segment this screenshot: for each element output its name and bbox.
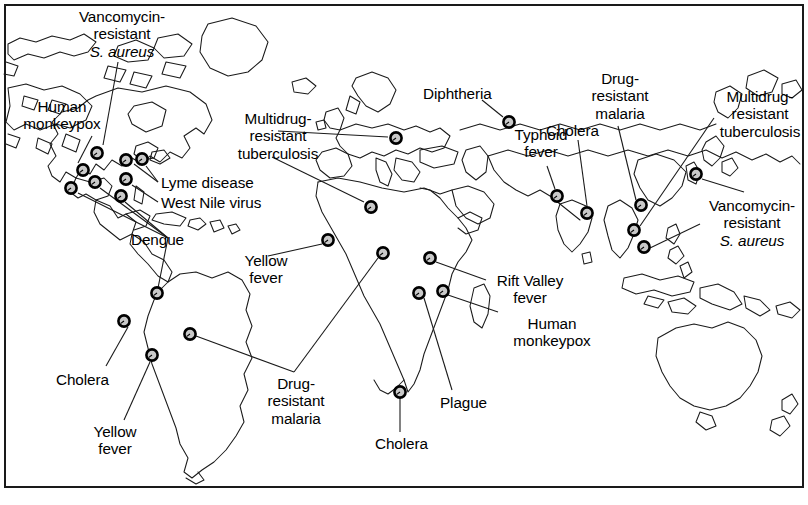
disease-label-cholera-africa: Cholera xyxy=(375,435,445,452)
disease-marker[interactable] xyxy=(413,287,424,298)
label-line: Multidrug- xyxy=(712,88,808,105)
label-line: fever xyxy=(489,289,571,306)
disease-marker[interactable] xyxy=(322,234,333,245)
disease-marker[interactable] xyxy=(581,207,592,218)
label-line: resistant xyxy=(578,87,662,104)
disease-marker[interactable] xyxy=(115,190,126,201)
coastlines-layer xyxy=(4,18,802,484)
label-line: Cholera xyxy=(546,122,616,139)
label-line: Drug- xyxy=(578,70,662,87)
disease-label-vancomycin-asia: Vancomycin-resistantS. aureus xyxy=(700,197,804,249)
disease-label-vancomycin-usa: Vancomycin-resistantS. aureus xyxy=(48,8,196,60)
label-line: Cholera xyxy=(375,435,445,452)
label-line: resistant xyxy=(700,214,804,231)
disease-marker[interactable] xyxy=(184,328,195,339)
label-line: tuberculosis xyxy=(224,145,332,162)
label-line: Human xyxy=(500,315,604,332)
disease-label-lyme-disease: Lyme disease xyxy=(161,174,277,191)
label-line: resistant xyxy=(712,105,808,122)
label-line: S. aureus xyxy=(48,43,196,60)
label-line: S. aureus xyxy=(700,232,804,249)
disease-marker[interactable] xyxy=(120,173,131,184)
label-line: Vancomycin- xyxy=(48,8,196,25)
label-line: Diphtheria xyxy=(423,85,507,102)
label-line: Multidrug- xyxy=(224,110,332,127)
disease-marker[interactable] xyxy=(151,287,162,298)
label-line: Human xyxy=(10,98,114,115)
disease-label-drug-resistant-malaria-asia: Drug-resistantmalaria xyxy=(578,70,662,122)
disease-label-west-nile-virus: West Nile virus xyxy=(161,194,287,211)
disease-marker[interactable] xyxy=(77,164,88,175)
label-line: Rift Valley xyxy=(489,272,571,289)
label-line: Cholera xyxy=(56,371,126,388)
disease-label-drug-resistant-malaria-africa: Drug-resistantmalaria xyxy=(254,375,338,427)
disease-marker[interactable] xyxy=(136,153,147,164)
label-line: tuberculosis xyxy=(712,123,808,140)
disease-marker[interactable] xyxy=(146,349,157,360)
disease-label-diphtheria: Diphtheria xyxy=(423,85,507,102)
disease-marker[interactable] xyxy=(365,201,376,212)
disease-marker[interactable] xyxy=(65,182,76,193)
label-line: malaria xyxy=(578,105,662,122)
label-line: Lyme disease xyxy=(161,174,277,191)
disease-marker[interactable] xyxy=(89,176,100,187)
disease-marker[interactable] xyxy=(638,241,649,252)
label-line: West Nile virus xyxy=(161,194,287,211)
label-line: resistant xyxy=(224,127,332,144)
label-line: Vancomycin- xyxy=(700,197,804,214)
label-line: fever xyxy=(505,143,577,160)
disease-label-human-monkeypox-usa: Humanmonkeypox xyxy=(10,98,114,133)
disease-marker[interactable] xyxy=(390,132,401,143)
label-line: Dengue xyxy=(131,231,201,248)
label-line: fever xyxy=(81,440,149,457)
disease-label-human-monkeypox-africa: Humanmonkeypox xyxy=(500,315,604,350)
disease-marker[interactable] xyxy=(551,190,562,201)
label-line: resistant xyxy=(254,392,338,409)
label-line: resistant xyxy=(48,25,196,42)
disease-marker[interactable] xyxy=(120,154,131,165)
label-line: monkeypox xyxy=(500,332,604,349)
disease-marker[interactable] xyxy=(437,285,448,296)
disease-marker[interactable] xyxy=(690,168,701,179)
disease-markers-layer xyxy=(65,116,701,397)
label-line: malaria xyxy=(254,410,338,427)
label-line: Drug- xyxy=(254,375,338,392)
disease-marker[interactable] xyxy=(118,315,129,326)
disease-label-yellow-fever-samerica: Yellowfever xyxy=(81,423,149,458)
disease-marker[interactable] xyxy=(377,247,388,258)
disease-marker[interactable] xyxy=(424,252,435,263)
disease-label-mdr-tb-asia: Multidrug-resistanttuberculosis xyxy=(712,88,808,140)
label-line: monkeypox xyxy=(10,115,114,132)
disease-label-cholera-india: Cholera xyxy=(546,122,616,139)
disease-label-dengue: Dengue xyxy=(131,231,201,248)
label-line: Yellow xyxy=(232,252,300,269)
disease-label-rift-valley-fever: Rift Valleyfever xyxy=(489,272,571,307)
disease-marker[interactable] xyxy=(628,224,639,235)
disease-label-cholera-peru: Cholera xyxy=(56,371,126,388)
label-line: Yellow xyxy=(81,423,149,440)
disease-marker[interactable] xyxy=(91,147,102,158)
disease-label-plague: Plague xyxy=(440,394,504,411)
disease-world-map-figure: Vancomycin-resistantS. aureusHumanmonkey… xyxy=(0,0,808,505)
label-line: fever xyxy=(232,269,300,286)
disease-marker[interactable] xyxy=(635,199,646,210)
label-line: Plague xyxy=(440,394,504,411)
disease-label-yellow-fever-africa: Yellowfever xyxy=(232,252,300,287)
disease-label-mdr-tb-europe: Multidrug-resistanttuberculosis xyxy=(224,110,332,162)
disease-marker[interactable] xyxy=(394,386,405,397)
